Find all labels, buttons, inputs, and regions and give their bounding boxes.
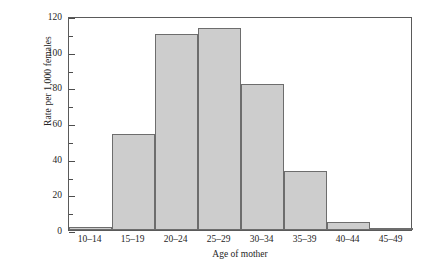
- y-tick-major: [69, 18, 75, 19]
- y-tick-label: 120: [28, 12, 62, 22]
- y-tick-label: 0: [28, 226, 62, 236]
- bar-10-14: [69, 227, 112, 230]
- bar-35-39: [284, 171, 327, 230]
- y-tick-minor: [69, 143, 73, 144]
- x-axis-tick-labels: 10–1415–1920–2425–2930–3435–3940–4445–49: [68, 234, 412, 250]
- histogram-figure: Rate per 1,000 females 020406080100120 1…: [0, 0, 433, 274]
- y-tick-label: 100: [28, 48, 62, 58]
- y-tick-major: [69, 161, 75, 162]
- bar-15-19: [112, 134, 155, 230]
- y-tick-minor: [69, 214, 73, 215]
- x-tick-label: 10–14: [78, 234, 102, 244]
- y-tick-label: 80: [28, 83, 62, 93]
- bar-25-29: [198, 28, 241, 230]
- x-tick-label: 25–29: [207, 234, 231, 244]
- y-tick-major: [69, 54, 75, 55]
- x-tick-label: 15–19: [121, 234, 145, 244]
- y-axis-tick-labels: 020406080100120: [28, 17, 62, 231]
- x-tick-label: 30–34: [250, 234, 274, 244]
- y-tick-major: [69, 196, 75, 197]
- x-tick-label: 45–49: [379, 234, 403, 244]
- x-tick-label: 35–39: [293, 234, 317, 244]
- y-tick-label: 60: [28, 119, 62, 129]
- y-tick-label: 20: [28, 190, 62, 200]
- y-tick-major: [69, 89, 75, 90]
- y-tick-minor: [69, 179, 73, 180]
- y-tick-label: 40: [28, 155, 62, 165]
- y-tick-major: [69, 125, 75, 126]
- y-tick-major: [69, 232, 75, 233]
- x-tick-label: 40–44: [336, 234, 360, 244]
- plot-inner: [69, 18, 411, 230]
- bar-40-44: [327, 222, 370, 230]
- x-tick-label: 20–24: [164, 234, 188, 244]
- bar-45-49: [370, 228, 413, 230]
- y-tick-minor: [69, 107, 73, 108]
- bar-30-34: [241, 84, 284, 230]
- bar-20-24: [155, 34, 198, 230]
- y-tick-minor: [69, 36, 73, 37]
- x-axis-label: Age of mother: [68, 249, 412, 259]
- y-tick-minor: [69, 72, 73, 73]
- plot-area: [68, 17, 412, 231]
